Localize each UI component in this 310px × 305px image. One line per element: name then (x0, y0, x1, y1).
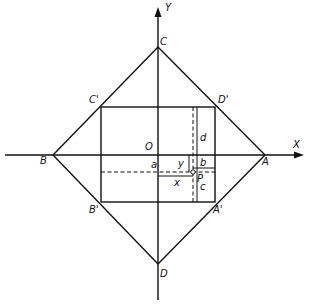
vertex-A-label: A (261, 156, 269, 167)
distance-d-label: d (200, 132, 207, 143)
coordinate-diagram: Y X O C A B D C' D' B' A' d b c a y x P (0, 0, 310, 305)
labels: Y X O C A B D C' D' B' A' d b c a y x P (40, 2, 301, 279)
distance-y-label: y (177, 158, 185, 169)
vertex-C-label: C (160, 36, 167, 47)
y-axis-arrow-icon (155, 7, 162, 17)
point-p-marker (191, 170, 195, 174)
vertex-A-prime-label: A' (212, 204, 223, 215)
vertex-B-prime-label: B' (89, 204, 99, 215)
x-axis-label: X (292, 139, 301, 150)
point-p-label: P (197, 173, 204, 184)
x-axis-arrow-icon (294, 152, 304, 159)
vertex-D-prime-label: D' (218, 94, 228, 105)
vertex-D-label: D (160, 268, 168, 279)
distance-x-label: x (173, 177, 180, 188)
vertex-C-prime-label: C' (89, 94, 99, 105)
distance-a-label: a (151, 159, 157, 170)
distance-b-label: b (200, 157, 206, 168)
y-axis-label: Y (165, 2, 172, 13)
vertex-B-label: B (40, 155, 47, 166)
origin-label: O (145, 141, 153, 152)
